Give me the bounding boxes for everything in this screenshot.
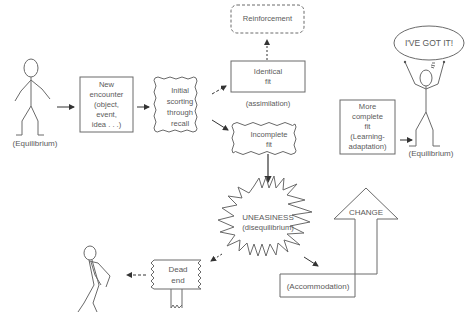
uneasiness-label: UNEASINESS (228, 213, 308, 223)
arrow-to-identical-fit (212, 86, 226, 94)
stick-figure-walking-away-icon (78, 246, 110, 312)
speech-bubble-text: I'VE GOT IT! (394, 38, 464, 48)
arrow-to-incomplete-fit (212, 120, 228, 130)
initial-sorting-line: Initial (155, 85, 205, 96)
hand-left (404, 61, 406, 63)
identical-fit-line: fit (231, 77, 305, 87)
change-label: CHANGE (340, 208, 392, 218)
incomplete-fit-line: fit (233, 140, 305, 150)
more-complete-fit-line: adaptation) (340, 142, 395, 152)
new-encounter-line: event, (80, 110, 133, 120)
dead-end-line: Dead (155, 264, 201, 275)
arrow-to-dead-end (211, 254, 222, 261)
hand-right (443, 61, 445, 63)
more-complete-fit-line: complete (340, 112, 395, 122)
initial-sorting-line: recall (155, 118, 205, 129)
stick-figure-equilibrium-start-icon (15, 59, 50, 135)
new-encounter-line: New (80, 80, 133, 90)
reinforcement-label: Reinforcement (231, 14, 304, 24)
equilibrium-end-label: (Equilibrium) (400, 149, 462, 159)
more-complete-fit-line: (Learning- (340, 132, 395, 142)
initial-sorting-line: scorting (155, 96, 205, 107)
new-encounter-line: idea . . .) (80, 120, 133, 130)
stick-figure-celebrating-icon (405, 62, 444, 146)
incomplete-fit-label: Incomplete fit (233, 130, 305, 150)
more-complete-fit-line: fit (340, 122, 395, 132)
initial-sorting-label: Initial scorting through recall (155, 85, 205, 129)
accommodation-label: (Accommodation) (282, 282, 354, 292)
new-encounter-line: (object, (80, 100, 133, 110)
dead-end-line: end (155, 275, 201, 286)
new-encounter-line: encounter (80, 90, 133, 100)
new-encounter-label: New encounter (object, event, idea . . .… (80, 80, 133, 130)
more-complete-fit-line: More (340, 102, 395, 112)
identical-fit-label: Identical fit (231, 67, 305, 87)
arrow-to-accommodation (304, 257, 318, 266)
dead-end-label: Dead end (155, 264, 201, 286)
incomplete-fit-line: Incomplete (233, 130, 305, 140)
initial-sorting-line: through (155, 107, 205, 118)
learning-process-diagram: (Equilibrium) New encounter (object, eve… (0, 0, 470, 322)
equilibrium-start-label: (Equilibrium) (4, 139, 66, 149)
more-complete-fit-label: More complete fit (Learning- adaptation) (340, 102, 395, 152)
diagram-canvas (0, 0, 470, 322)
identical-fit-line: Identical (231, 67, 305, 77)
assimilation-label: (assimilation) (231, 99, 305, 109)
disequilibrium-label: (disequilibrium) (228, 223, 308, 233)
